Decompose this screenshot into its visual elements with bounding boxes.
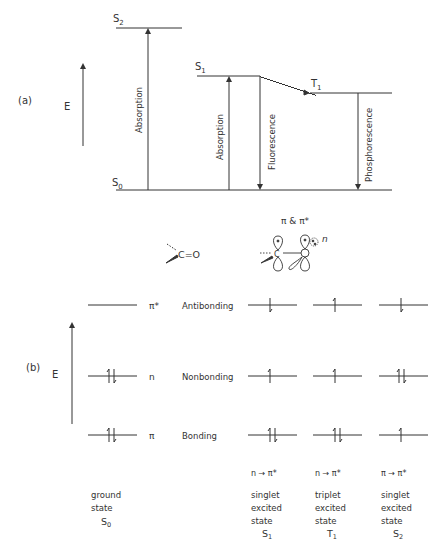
state-descriptions: ground state S0 singlet excited state S1… (91, 490, 412, 541)
oxygen-lone-pair-lobe (289, 257, 302, 270)
desc-t1-2: excited (315, 503, 346, 513)
electron-dot (304, 239, 306, 241)
diagram-canvas: (a) E S2 S1 T1 S0 Absorption Absorption … (0, 0, 444, 550)
state-s1-label: S1 (262, 528, 272, 541)
absorption-s1-label: Absorption (215, 114, 225, 160)
oxygen-p-lobe-top (301, 235, 310, 249)
transition-label-t1: n → π* (315, 469, 341, 478)
carbonyl-structure (166, 244, 178, 263)
part-a-energy-label: E (64, 101, 70, 112)
electron-dot (277, 240, 279, 242)
desc-t1-3: state (315, 516, 337, 526)
orbital-name-bonding: Bonding (182, 431, 217, 441)
s0-label: S0 (112, 177, 123, 191)
dashed-bond (167, 244, 176, 250)
desc-ground-1: ground (91, 490, 121, 500)
electron-dot (314, 243, 316, 245)
carbon-atom-label: C (274, 250, 280, 259)
orbital-symbol-pistar: π* (149, 301, 159, 311)
carbonyl-formula: C=O (178, 249, 200, 260)
isc-arrowhead (304, 90, 309, 95)
orbital-drawing: C (260, 235, 318, 271)
desc-s1-2: excited (251, 503, 282, 513)
state-s2-label: S2 (393, 528, 403, 541)
phosphorescence-label: Phosphorescence (364, 108, 374, 182)
state-t1-label: T1 (326, 528, 337, 541)
oxygen-p-lobe-bottom (301, 257, 310, 271)
t1-label: T1 (310, 78, 322, 92)
electron-spins (107, 298, 406, 442)
desc-s2-2: excited (381, 503, 412, 513)
desc-s2-1: singlet (381, 490, 410, 500)
transition-label-s1: n → π* (251, 469, 277, 478)
fluorescence-label: Fluorescence (267, 114, 277, 170)
s2-label: S2 (113, 13, 124, 27)
orbital-symbol-n: n (149, 372, 155, 382)
part-b-energy-label: E (52, 369, 58, 380)
orbital-name-nonbonding: Nonbonding (182, 372, 233, 382)
state-s0-label: S0 (101, 516, 111, 529)
desc-t1-1: triplet (315, 490, 341, 500)
part-a-diagram (83, 28, 392, 190)
part-a-label: (a) (18, 95, 32, 106)
desc-ground-2: state (91, 503, 113, 513)
carbon-p-lobe-top (274, 236, 283, 250)
carbon-p-lobe-bottom (274, 257, 283, 271)
wedge-bond (166, 255, 178, 263)
desc-s1-1: singlet (251, 490, 280, 500)
desc-s2-3: state (381, 516, 403, 526)
part-b-label: (b) (26, 362, 40, 373)
wedge-bond (261, 256, 273, 263)
orbital-levels (88, 305, 428, 435)
electron-dot (312, 240, 314, 242)
orbital-name-antibonding: Antibonding (182, 301, 233, 311)
n-orbital-label: n (322, 234, 328, 244)
oxygen-atom (301, 249, 309, 257)
transition-label-s2: π → π* (381, 469, 406, 478)
absorption-s2-label: Absorption (134, 87, 144, 133)
desc-s1-3: state (251, 516, 273, 526)
orbital-title: π & π* (281, 216, 310, 226)
orbital-symbol-pi: π (149, 431, 155, 441)
s1-label: S1 (195, 61, 206, 75)
